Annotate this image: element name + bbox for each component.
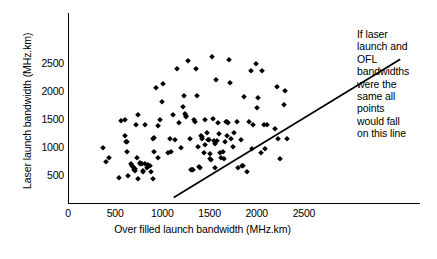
scatter-point [150,176,156,182]
annotation-line: on this line [357,127,435,139]
annotation-line: launch and [357,40,435,52]
scatter-point [282,87,288,93]
scatter-point [225,120,231,126]
scatter-point [148,169,154,175]
scatter-point [254,105,260,111]
scatter-point [284,136,290,142]
scatter-point [248,68,254,74]
scatter-point [241,94,247,100]
scatter-point [172,137,178,143]
scatter-point [153,85,159,91]
scatter-point [160,81,166,87]
scatter-point [221,156,227,162]
scatter-point [135,176,141,182]
scatter-point [178,144,184,150]
scatter-point [222,139,228,145]
annotation-line: OFL [357,53,435,65]
scatter-point [275,136,281,142]
scatter-point [216,131,222,137]
annotation-line: were the [357,78,435,90]
scatter-point [195,144,201,150]
scatter-point [173,66,179,72]
scatter-point [230,144,236,150]
scatter-point [226,57,232,63]
scatter-point [133,122,139,128]
scatter-point [202,117,208,123]
scatter-point [193,66,199,72]
identity-line-annotation: If laserlaunch andOFLbandwidthswere thes… [357,28,435,140]
scatter-point [185,58,191,64]
x-tick-label: 2000 [235,207,279,219]
x-tick-label: 0 [46,207,90,219]
y-tick-label: 1000 [30,142,64,152]
scatter-point [176,120,182,126]
x-axis-title: Over filled launch bandwidth (MHz.km) [0,223,405,235]
scatter-point [124,149,130,155]
scatter-point [272,126,278,132]
scatter-point [100,145,106,151]
scatter-point [212,165,218,171]
scatter-point [125,172,131,178]
x-tick-label: 500 [93,207,137,219]
scatter-point [135,112,141,118]
scatter-point [159,99,165,105]
scatter-chart-figure: Laser launch bandwidth (MHz.km) 50010001… [0,0,437,259]
scatter-point [249,146,255,152]
scatter-point [273,83,279,89]
scatter-point [208,157,214,163]
y-tick-label: 2000 [30,86,64,96]
scatter-point [204,130,210,136]
scatter-point [234,119,240,125]
scatter-point [209,54,215,60]
annotation-line: would fall [357,115,435,127]
scatter-point [277,156,283,162]
annotation-line: same all [357,90,435,102]
scatter-point [187,136,193,142]
scatter-point [116,175,122,181]
scatter-point [155,123,161,129]
scatter-point [197,165,203,171]
scatter-point [180,104,186,110]
x-tick-label: 2500 [282,207,326,219]
scatter-point [155,155,161,161]
y-tick-label: 1500 [30,114,64,124]
scatter-point [255,95,261,101]
x-tick-label: 1500 [188,207,232,219]
annotation-line: bandwidths [357,65,435,77]
x-tick-label: 1000 [140,207,184,219]
scatter-point [215,120,221,126]
scatter-point [238,137,244,143]
scatter-point [227,80,233,86]
scatter-point [281,101,287,107]
scatter-point [253,61,259,67]
scatter-point [231,130,237,136]
scatter-point [157,117,163,123]
scatter-point [244,169,250,175]
y-tick-label: 2500 [30,58,64,68]
scatter-point [181,92,187,98]
y-tick-label: 500 [30,170,64,180]
annotation-line: If laser [357,28,435,40]
scatter-point [170,112,176,118]
scatter-point [259,68,265,74]
scatter-point [142,122,148,128]
x-axis-tick-labels: 05001000150020002500 [0,207,437,221]
scatter-point [250,122,256,128]
scatter-point [213,77,219,83]
annotation-line: points [357,102,435,114]
scatter-point [194,92,200,98]
